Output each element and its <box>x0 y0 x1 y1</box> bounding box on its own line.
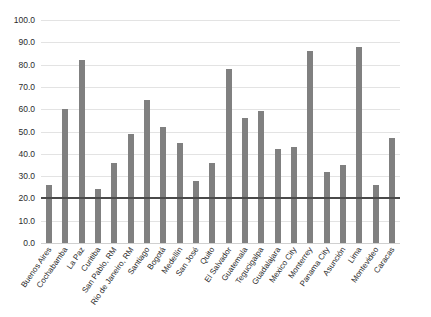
bar-slot <box>123 20 139 243</box>
y-tick-label: 90.0 <box>18 38 35 47</box>
bar-slot <box>204 20 220 243</box>
y-tick-label: 100.0 <box>14 16 35 25</box>
y-tick-label: 10.0 <box>18 216 35 225</box>
bar-slot <box>286 20 302 243</box>
reference-line <box>41 197 400 199</box>
bar-slot <box>172 20 188 243</box>
bar-slot <box>318 20 334 243</box>
bar <box>111 163 117 243</box>
y-tick-label: 20.0 <box>18 194 35 203</box>
bar <box>324 172 330 243</box>
bar <box>242 118 248 243</box>
bar <box>62 109 68 243</box>
bar <box>226 69 232 243</box>
bar-slot <box>384 20 400 243</box>
bar-slot <box>367 20 383 243</box>
bar <box>356 47 362 243</box>
bar-slot <box>57 20 73 243</box>
bar-slot <box>41 20 57 243</box>
bar-slot <box>351 20 367 243</box>
bar <box>389 138 395 243</box>
bar-chart: 0.010.020.030.040.050.060.070.080.090.01… <box>0 0 431 317</box>
y-tick-label: 40.0 <box>18 150 35 159</box>
bar <box>340 165 346 243</box>
bar <box>373 185 379 243</box>
bar <box>275 149 281 243</box>
bar-series <box>41 20 400 243</box>
bar-slot <box>335 20 351 243</box>
bar-slot <box>74 20 90 243</box>
bar-slot <box>188 20 204 243</box>
bar <box>144 100 150 243</box>
bar-slot <box>237 20 253 243</box>
bar-slot <box>90 20 106 243</box>
x-axis: Buenos AiresCochabambaLa PazCuritibaSan … <box>41 246 400 317</box>
y-tick-label: 80.0 <box>18 60 35 69</box>
bar-slot <box>269 20 285 243</box>
bar-slot <box>253 20 269 243</box>
bar <box>307 51 313 243</box>
bar-slot <box>155 20 171 243</box>
bar <box>160 127 166 243</box>
bar <box>193 181 199 243</box>
y-tick-label: 30.0 <box>18 172 35 181</box>
bar-slot <box>139 20 155 243</box>
bar-slot <box>221 20 237 243</box>
bar <box>291 147 297 243</box>
y-tick-label: 70.0 <box>18 83 35 92</box>
bar <box>46 185 52 243</box>
bar <box>128 134 134 243</box>
y-tick-label: 50.0 <box>18 127 35 136</box>
plot-area <box>41 20 400 243</box>
y-tick-label: 60.0 <box>18 105 35 114</box>
bar <box>177 143 183 243</box>
y-tick-label: 0.0 <box>23 239 35 248</box>
bar <box>258 111 264 243</box>
bar-slot <box>302 20 318 243</box>
bar <box>79 60 85 243</box>
bar <box>209 163 215 243</box>
bar-slot <box>106 20 122 243</box>
